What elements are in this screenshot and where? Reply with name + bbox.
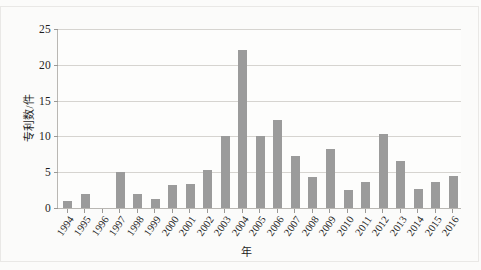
bar-2004[interactable] bbox=[238, 50, 247, 208]
bar-slot-2010 bbox=[339, 29, 357, 208]
y-tick-label-20: 20 bbox=[39, 59, 51, 71]
x-tick-label-1994: 1994 bbox=[54, 214, 75, 238]
bar-1999[interactable] bbox=[151, 199, 160, 208]
bar-2013[interactable] bbox=[396, 161, 405, 208]
bar-slot-2001 bbox=[182, 29, 200, 208]
bar-slot-2012 bbox=[374, 29, 392, 208]
bar-slot-1999 bbox=[147, 29, 165, 208]
bar-2012[interactable] bbox=[379, 134, 388, 208]
y-tick-mark-5 bbox=[54, 172, 58, 173]
x-tick-mark-1996 bbox=[102, 209, 103, 213]
bar-2006[interactable] bbox=[273, 120, 282, 208]
chart-figure: 专利数/件 0510152025 19941995199619971998199… bbox=[0, 0, 481, 270]
x-tick-mark-1998 bbox=[137, 209, 138, 213]
x-axis-title: 年 bbox=[0, 243, 481, 259]
x-tick-mark-2007 bbox=[294, 209, 295, 213]
x-tick-label-2015: 2015 bbox=[422, 214, 443, 238]
x-tick-mark-2013 bbox=[400, 209, 401, 213]
x-tick-mark-2002 bbox=[207, 209, 208, 213]
x-tick-label-2007: 2007 bbox=[282, 214, 303, 238]
x-tick-mark-2008 bbox=[312, 209, 313, 213]
x-tick-label-2011: 2011 bbox=[352, 214, 373, 238]
bar-2011[interactable] bbox=[361, 182, 370, 208]
bar-1995[interactable] bbox=[81, 194, 90, 208]
bar-2001[interactable] bbox=[186, 184, 195, 208]
bar-slot-1996 bbox=[94, 29, 112, 208]
bar-slot-2009 bbox=[322, 29, 340, 208]
bar-2003[interactable] bbox=[221, 136, 230, 208]
bar-2015[interactable] bbox=[431, 182, 440, 208]
y-tick-mark-10 bbox=[54, 136, 58, 137]
bar-1997[interactable] bbox=[116, 172, 125, 208]
y-tick-mark-20 bbox=[54, 65, 58, 66]
bar-slot-2005 bbox=[252, 29, 270, 208]
bar-slot-2011 bbox=[357, 29, 375, 208]
bar-slot-2003 bbox=[217, 29, 235, 208]
x-tick-label-2016: 2016 bbox=[440, 214, 461, 238]
y-tick-mark-25 bbox=[54, 29, 58, 30]
bar-slot-2006 bbox=[269, 29, 287, 208]
bar-slot-2015 bbox=[427, 29, 445, 208]
x-tick-mark-2001 bbox=[189, 209, 190, 213]
bar-2010[interactable] bbox=[344, 190, 353, 208]
x-tick-mark-2015 bbox=[435, 209, 436, 213]
x-tick-mark-2006 bbox=[277, 209, 278, 213]
x-tick-label-2003: 2003 bbox=[212, 214, 233, 238]
x-tick-mark-2003 bbox=[224, 209, 225, 213]
bar-2005[interactable] bbox=[256, 136, 265, 208]
x-tick-label-2000: 2000 bbox=[160, 214, 181, 238]
x-tick-label-2012: 2012 bbox=[370, 214, 391, 238]
bar-slot-2007 bbox=[287, 29, 305, 208]
x-tick-label-1999: 1999 bbox=[142, 214, 163, 238]
x-tick-label-2006: 2006 bbox=[265, 214, 286, 238]
bar-slot-2016 bbox=[444, 29, 462, 208]
bar-slot-2014 bbox=[409, 29, 427, 208]
x-tick-label-2010: 2010 bbox=[335, 214, 356, 238]
x-tick-label-1995: 1995 bbox=[72, 214, 93, 238]
bar-slot-1994 bbox=[59, 29, 77, 208]
x-tick-mark-2000 bbox=[172, 209, 173, 213]
bar-2016[interactable] bbox=[449, 176, 458, 208]
x-tick-mark-2004 bbox=[242, 209, 243, 213]
bar-slot-2000 bbox=[164, 29, 182, 208]
x-tick-label-2002: 2002 bbox=[195, 214, 216, 238]
bar-2000[interactable] bbox=[168, 185, 177, 208]
x-tick-label-2014: 2014 bbox=[405, 214, 426, 238]
plot-area: 0510152025 bbox=[57, 29, 461, 209]
x-tick-mark-2005 bbox=[259, 209, 260, 213]
x-axis-title-text: 年 bbox=[241, 246, 252, 258]
bar-1994[interactable] bbox=[63, 201, 72, 208]
x-tick-label-2005: 2005 bbox=[247, 214, 268, 238]
x-tick-mark-1997 bbox=[119, 209, 120, 213]
x-tick-label-1997: 1997 bbox=[107, 214, 128, 238]
y-axis-title: 专利数/件 bbox=[20, 94, 36, 141]
x-tick-mark-2009 bbox=[329, 209, 330, 213]
x-tick-mark-2012 bbox=[382, 209, 383, 213]
bar-2008[interactable] bbox=[308, 177, 317, 209]
y-tick-label-10: 10 bbox=[39, 130, 51, 142]
x-tick-label-1998: 1998 bbox=[125, 214, 146, 238]
bar-slot-1997 bbox=[112, 29, 130, 208]
x-tick-mark-1999 bbox=[154, 209, 155, 213]
x-tick-mark-2011 bbox=[365, 209, 366, 213]
bar-slot-2008 bbox=[304, 29, 322, 208]
bar-1998[interactable] bbox=[133, 194, 142, 208]
bar-slot-2004 bbox=[234, 29, 252, 208]
y-tick-label-0: 0 bbox=[45, 202, 51, 214]
bar-2007[interactable] bbox=[291, 156, 300, 208]
y-tick-mark-15 bbox=[54, 101, 58, 102]
x-tick-label-2004: 2004 bbox=[230, 214, 251, 238]
x-tick-label-2009: 2009 bbox=[317, 214, 338, 238]
bar-slot-1998 bbox=[129, 29, 147, 208]
bar-2009[interactable] bbox=[326, 149, 335, 208]
x-tick-mark-2010 bbox=[347, 209, 348, 213]
x-tick-label-2008: 2008 bbox=[300, 214, 321, 238]
y-tick-label-5: 5 bbox=[45, 166, 51, 178]
bar-2002[interactable] bbox=[203, 170, 212, 208]
x-tick-mark-1994 bbox=[67, 209, 68, 213]
x-tick-label-2013: 2013 bbox=[387, 214, 408, 238]
x-tick-label-1996: 1996 bbox=[90, 214, 111, 238]
x-tick-mark-1995 bbox=[84, 209, 85, 213]
bar-slot-2013 bbox=[392, 29, 410, 208]
bar-2014[interactable] bbox=[414, 189, 423, 208]
